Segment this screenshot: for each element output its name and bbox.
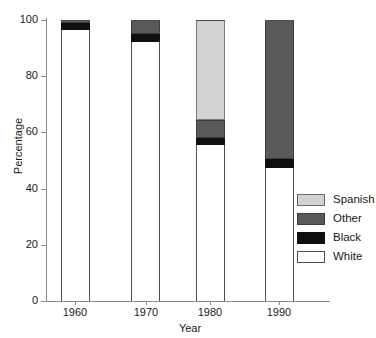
y-axis-title: Percentage xyxy=(12,96,24,196)
bar-segment-1990-other[interactable] xyxy=(265,20,294,159)
y-tick-40 xyxy=(41,189,46,190)
bar-segment-1980-spanish[interactable] xyxy=(196,20,225,120)
x-tick-1970 xyxy=(146,301,147,305)
bar-segment-1960-white[interactable] xyxy=(61,30,90,301)
x-tick-label-1990: 1990 xyxy=(249,306,309,318)
stacked-bar-chart: 100 80 60 40 20 0 Percentage 1960 1970 1… xyxy=(0,0,376,338)
y-tick-label-20: 20 xyxy=(26,239,38,250)
x-tick-label-1970: 1970 xyxy=(116,306,176,318)
y-tick-label-60: 60 xyxy=(26,126,38,137)
bar-segment-1960-black[interactable] xyxy=(61,23,90,30)
bar-segment-1970-other[interactable] xyxy=(131,20,160,34)
y-axis-line xyxy=(46,18,47,302)
bar-segment-1980-white[interactable] xyxy=(196,145,225,301)
bar-1990[interactable] xyxy=(265,20,294,301)
x-axis-line xyxy=(46,301,330,302)
x-tick-label-1960: 1960 xyxy=(45,306,105,318)
y-tick-label-0: 0 xyxy=(32,295,38,306)
legend-swatch-black xyxy=(297,232,325,244)
bar-top-outline-1990 xyxy=(265,20,294,21)
legend-swatch-white xyxy=(297,251,325,263)
x-axis-title: Year xyxy=(140,322,240,334)
bar-1970[interactable] xyxy=(131,20,160,301)
bar-top-outline-1960 xyxy=(61,20,90,21)
bar-top-outline-1980 xyxy=(196,20,225,21)
bar-segment-1990-black[interactable] xyxy=(265,159,294,167)
y-tick-label-40: 40 xyxy=(26,183,38,194)
bar-segment-1980-black[interactable] xyxy=(196,138,225,145)
bar-segment-1980-other[interactable] xyxy=(196,120,225,138)
bar-segment-1990-white[interactable] xyxy=(265,168,294,301)
bar-1980[interactable] xyxy=(196,20,225,301)
x-tick-1980 xyxy=(210,301,211,305)
x-tick-1990 xyxy=(279,301,280,305)
y-tick-20 xyxy=(41,245,46,246)
legend-label-black: Black xyxy=(333,230,361,245)
y-tick-label-100: 100 xyxy=(20,14,38,25)
legend-label-spanish: Spanish xyxy=(333,192,375,207)
legend-label-white: White xyxy=(333,249,362,264)
y-tick-60 xyxy=(41,132,46,133)
y-tick-label-80: 80 xyxy=(26,70,38,81)
x-tick-label-1980: 1980 xyxy=(180,306,240,318)
x-tick-1960 xyxy=(75,301,76,305)
legend-swatch-other xyxy=(297,213,325,225)
bar-top-outline-1970 xyxy=(131,20,160,21)
bar-1960[interactable] xyxy=(61,20,90,301)
bar-segment-1970-white[interactable] xyxy=(131,42,160,301)
y-tick-80 xyxy=(41,76,46,77)
cropped-title-artifact xyxy=(60,0,240,5)
bar-segment-1970-black[interactable] xyxy=(131,34,160,42)
legend-label-other: Other xyxy=(333,211,362,226)
y-tick-100 xyxy=(41,20,46,21)
legend-swatch-spanish xyxy=(297,194,325,206)
